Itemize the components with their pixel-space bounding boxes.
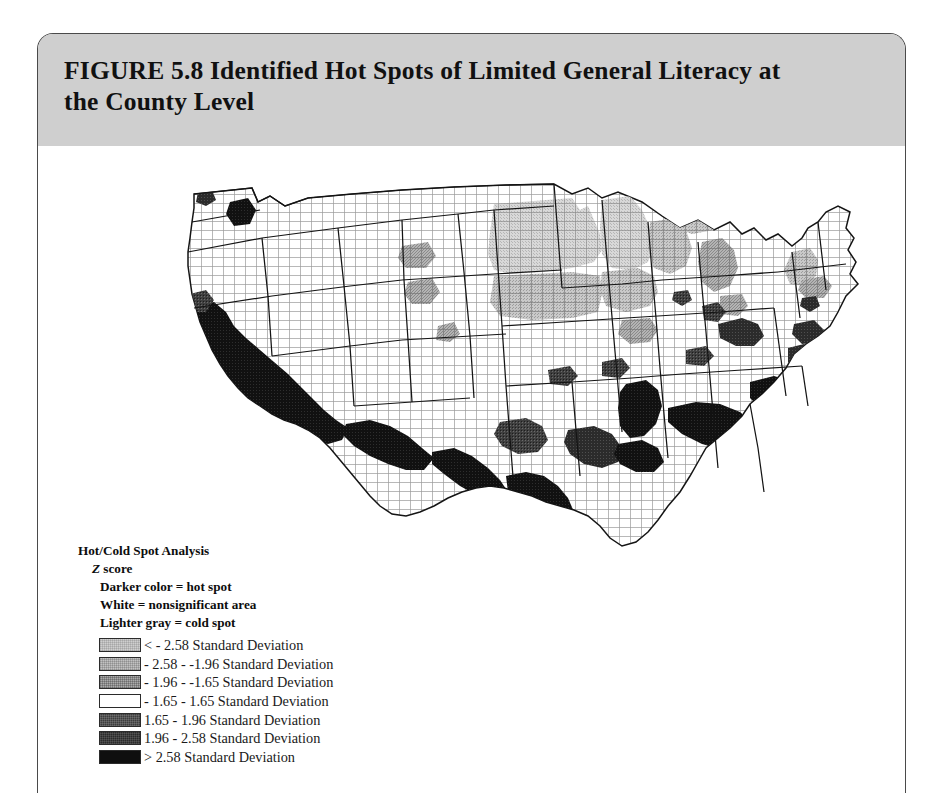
legend-label: - 1.96 - -1.65 Standard Deviation (144, 675, 333, 689)
map-legend: Hot/Cold Spot Analysis Z score Darker co… (78, 542, 478, 766)
legend-note-lighter: Lighter gray = cold spot (78, 614, 478, 632)
legend-class-list: < - 2.58 Standard Deviation - 2.58 - -1.… (78, 636, 478, 766)
legend-subheading: Z score (78, 560, 478, 578)
legend-swatch-icon (99, 750, 141, 764)
legend-item[interactable]: - 1.96 - -1.65 Standard Deviation (78, 673, 478, 692)
us-county-choropleth-map[interactable] (102, 176, 892, 596)
legend-item[interactable]: 1.96 - 2.58 Standard Deviation (78, 729, 478, 748)
legend-label: - 1.65 - 1.65 Standard Deviation (144, 694, 329, 708)
figure-title: FIGURE 5.8 Identified Hot Spots of Limit… (64, 55, 864, 117)
figure-panel: FIGURE 5.8 Identified Hot Spots of Limit… (37, 33, 906, 793)
legend-item[interactable]: > 2.58 Standard Deviation (78, 748, 478, 767)
legend-swatch-icon (99, 675, 141, 689)
legend-label: 1.65 - 1.96 Standard Deviation (144, 713, 320, 727)
legend-label: > 2.58 Standard Deviation (144, 750, 295, 764)
legend-item[interactable]: - 1.65 - 1.65 Standard Deviation (78, 692, 478, 711)
legend-note-darker: Darker color = hot spot (78, 578, 478, 596)
legend-note-white: White = nonsignificant area (78, 596, 478, 614)
legend-item[interactable]: - 2.58 - -1.96 Standard Deviation (78, 655, 478, 674)
legend-item[interactable]: < - 2.58 Standard Deviation (78, 636, 478, 655)
legend-zscore-symbol: Z (92, 561, 100, 576)
legend-swatch-icon (99, 731, 141, 745)
legend-label: < - 2.58 Standard Deviation (144, 638, 303, 652)
legend-label: 1.96 - 2.58 Standard Deviation (144, 731, 320, 745)
hot-region-eastern-carolina (788, 342, 840, 378)
legend-heading: Hot/Cold Spot Analysis (78, 542, 478, 560)
map-stage: Hot/Cold Spot Analysis Z score Darker co… (38, 146, 905, 792)
legend-swatch-icon (99, 694, 141, 708)
legend-zscore-word: score (100, 561, 132, 576)
figure-title-line-2: the County Level (64, 87, 254, 116)
legend-swatch-icon (99, 638, 141, 652)
legend-swatch-icon (99, 713, 141, 727)
hot-region-south-florida (796, 456, 834, 514)
legend-swatch-icon (99, 657, 141, 671)
legend-label: - 2.58 - -1.96 Standard Deviation (144, 657, 333, 671)
legend-item[interactable]: 1.65 - 1.96 Standard Deviation (78, 710, 478, 729)
figure-title-line-1: FIGURE 5.8 Identified Hot Spots of Limit… (64, 56, 780, 85)
cold-region-nebraska-kansas (490, 272, 602, 320)
